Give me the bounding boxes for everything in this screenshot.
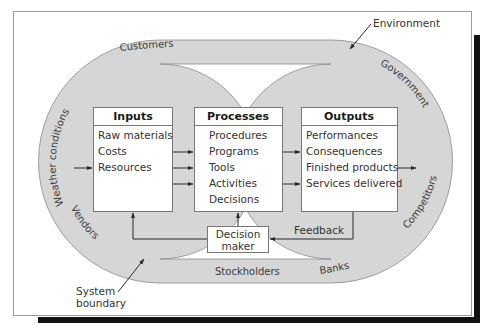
outputs-box: Outputs Performances Consequences Finish… bbox=[302, 108, 403, 212]
processes-box: Processes Procedures Programs Tools Acti… bbox=[195, 108, 283, 212]
systems-diagram: Customers Weather conditions Government … bbox=[0, 0, 490, 334]
frame-shadow-bottom bbox=[38, 317, 480, 323]
inputs-title: Inputs bbox=[113, 110, 153, 123]
processes-item: Activities bbox=[209, 177, 257, 189]
outputs-title: Outputs bbox=[324, 110, 374, 123]
inputs-item: Resources bbox=[98, 161, 152, 173]
decision-maker-line1: Decision bbox=[216, 228, 261, 240]
decision-maker-line2: maker bbox=[221, 240, 255, 252]
processes-title: Processes bbox=[207, 110, 270, 123]
processes-item: Procedures bbox=[209, 129, 267, 141]
environment-callout: Environment bbox=[373, 17, 440, 29]
feedback-label: Feedback bbox=[294, 224, 345, 236]
inputs-box: Inputs Raw materials Costs Resources bbox=[94, 108, 173, 212]
inputs-item: Raw materials bbox=[98, 129, 173, 141]
processes-item: Programs bbox=[209, 145, 259, 157]
env-label-stockholders: Stockholders bbox=[215, 266, 280, 277]
system-boundary-callout-line1: System bbox=[76, 285, 115, 297]
outputs-item: Services delivered bbox=[306, 177, 402, 189]
decision-maker-box: Decision maker bbox=[208, 227, 269, 253]
processes-item: Decisions bbox=[209, 193, 259, 205]
outputs-item: Consequences bbox=[306, 145, 382, 157]
outputs-item: Performances bbox=[306, 129, 378, 141]
system-boundary-callout-line2: boundary bbox=[76, 297, 126, 309]
outputs-item: Finished products bbox=[306, 161, 398, 173]
processes-item: Tools bbox=[208, 161, 235, 173]
inputs-item: Costs bbox=[98, 145, 127, 157]
frame-shadow-right bbox=[474, 35, 480, 323]
